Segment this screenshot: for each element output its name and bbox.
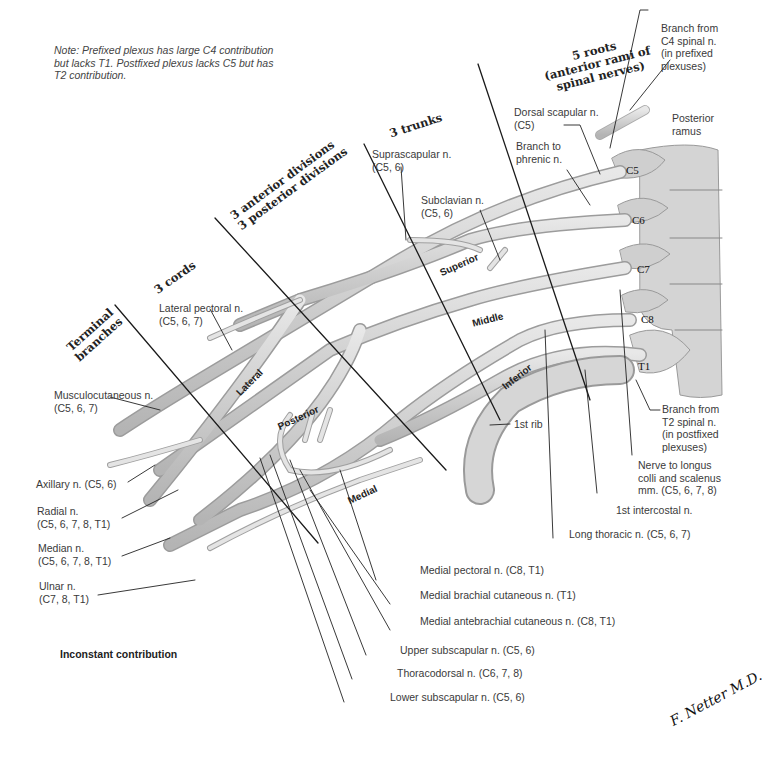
root-c7: C7: [637, 263, 650, 275]
label-branch-c4: Branch from C4 spinal n. (in prefixed pl…: [661, 22, 718, 72]
root-c6: C6: [632, 214, 645, 226]
root-c8: C8: [641, 313, 654, 325]
label-branch-phrenic: Branch to phrenic n.: [516, 140, 562, 165]
label-long-thoracic: Long thoracic n. (C5, 6, 7): [569, 528, 690, 541]
label-radial: Radial n. (C5, 6, 7, 8, T1): [37, 505, 110, 530]
label-medial-brachial-cutaneous: Medial brachial cutaneous n. (T1): [420, 589, 576, 602]
label-upper-subscapular: Upper subscapular n. (C5, 6): [400, 644, 535, 657]
label-axillary: Axillary n. (C5, 6): [36, 478, 117, 491]
label-suprascapular: Suprascapular n. (C5, 6): [372, 148, 451, 173]
divider-trunks-divisions: [364, 144, 500, 420]
label-musculocutaneous: Musculocutaneous n. (C5, 6, 7): [54, 389, 153, 414]
root-t1: T1: [638, 360, 650, 372]
label-first-rib: 1st rib: [514, 418, 543, 431]
label-medial-antebrachial-cutaneous: Medial antebrachial cutaneous n. (C8, T1…: [420, 615, 615, 628]
label-first-intercostal: 1st intercostal n.: [616, 504, 692, 517]
label-branch-t2: Branch from T2 spinal n. (in postfixed p…: [662, 403, 719, 453]
root-c5: C5: [626, 164, 639, 176]
label-longus-colli: Nerve to longus colli and scalenus mm. (…: [638, 459, 721, 497]
label-lower-subscapular: Lower subscapular n. (C5, 6): [390, 691, 525, 704]
label-dorsal-scapular: Dorsal scapular n. (C5): [514, 106, 599, 131]
label-ulnar: Ulnar n. (C7, 8, T1): [39, 580, 89, 605]
label-medial-pectoral: Medial pectoral n. (C8, T1): [420, 564, 544, 577]
label-subclavian: Subclavian n. (C5, 6): [421, 194, 484, 219]
legend-inconstant-contribution: Inconstant contribution: [60, 648, 177, 660]
plexus-note: Note: Prefixed plexus has large C4 contr…: [54, 44, 274, 82]
label-thoracodorsal: Thoracodorsal n. (C6, 7, 8): [397, 667, 522, 680]
label-median: Median n. (C5, 6, 7, 8, T1): [38, 542, 111, 567]
label-posterior-ramus: Posterior ramus: [672, 112, 714, 137]
label-lateral-pectoral: Lateral pectoral n. (C5, 6, 7): [159, 302, 243, 327]
